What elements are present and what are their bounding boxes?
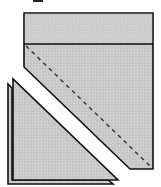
top-band	[25, 14, 152, 44]
diagram-canvas	[0, 0, 161, 187]
cropped-text-fragment	[33, 0, 43, 2]
